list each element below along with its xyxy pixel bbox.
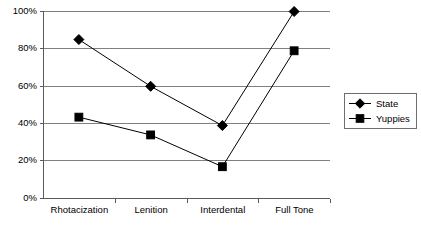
legend: State Yuppies xyxy=(345,94,417,129)
x-label-lenition: Lenition xyxy=(134,204,167,215)
square-marker-icon xyxy=(356,115,364,123)
y-label-80: 80% xyxy=(18,42,38,53)
y-label-100: 100% xyxy=(13,5,38,16)
square-marker-icon xyxy=(147,131,155,139)
legend-label-yuppies: Yuppies xyxy=(376,113,410,124)
legend-label-state: State xyxy=(376,98,398,109)
y-label-40: 40% xyxy=(18,117,38,128)
x-label-interdental: Interdental xyxy=(200,204,245,215)
y-label-0: 0% xyxy=(23,192,37,203)
x-label-full-tone: Full Tone xyxy=(275,204,313,215)
square-marker-icon xyxy=(75,113,83,121)
x-label-rhotacization: Rhotacization xyxy=(51,204,109,215)
y-label-60: 60% xyxy=(18,80,38,91)
y-label-20: 20% xyxy=(18,154,38,165)
square-marker-icon xyxy=(218,163,226,171)
square-marker-icon xyxy=(290,47,298,55)
line-chart: 100% 80% 60% 40% 20% 0% Rhotacization Le… xyxy=(0,0,421,236)
chart-container: 100% 80% 60% 40% 20% 0% Rhotacization Le… xyxy=(0,0,421,236)
